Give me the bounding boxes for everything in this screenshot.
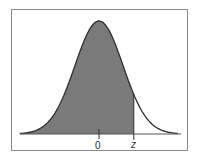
tick-label-z: z — [131, 140, 136, 150]
tick-label-zero: 0 — [95, 141, 101, 151]
shaded-area-left-of-z — [20, 21, 134, 134]
normal-curve-chart — [0, 0, 199, 160]
